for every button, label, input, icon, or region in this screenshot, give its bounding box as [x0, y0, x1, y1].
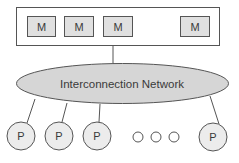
processor-label: P — [93, 130, 100, 142]
memory-module: M — [181, 17, 210, 37]
processor-node: P — [45, 122, 73, 150]
processor-node: P — [199, 123, 227, 151]
network-label: Interconnection Network — [60, 78, 184, 90]
ellipsis-dot-icon — [169, 132, 179, 142]
memory-module-label: M — [113, 21, 122, 33]
memory-module: M — [28, 17, 56, 37]
memory-module: M — [65, 17, 94, 37]
processor-node: P — [83, 122, 111, 150]
processor-label: P — [55, 130, 62, 142]
processor-label: P — [17, 130, 24, 142]
shared-memory-diagram: M M M M Interconnection Network P P P P — [0, 0, 239, 163]
processor-node: P — [7, 122, 35, 150]
processor-link — [210, 96, 219, 124]
memory-module-label: M — [37, 21, 46, 33]
memory-module: M — [104, 17, 133, 37]
processor-link — [62, 103, 67, 122]
memory-module-label: M — [190, 21, 199, 33]
processor-label: P — [209, 131, 216, 143]
ellipsis-dot-icon — [133, 132, 143, 142]
ellipsis-dot-icon — [151, 132, 161, 142]
processor-link — [27, 99, 35, 123]
memory-module-label: M — [74, 21, 83, 33]
processor-link — [99, 104, 100, 122]
